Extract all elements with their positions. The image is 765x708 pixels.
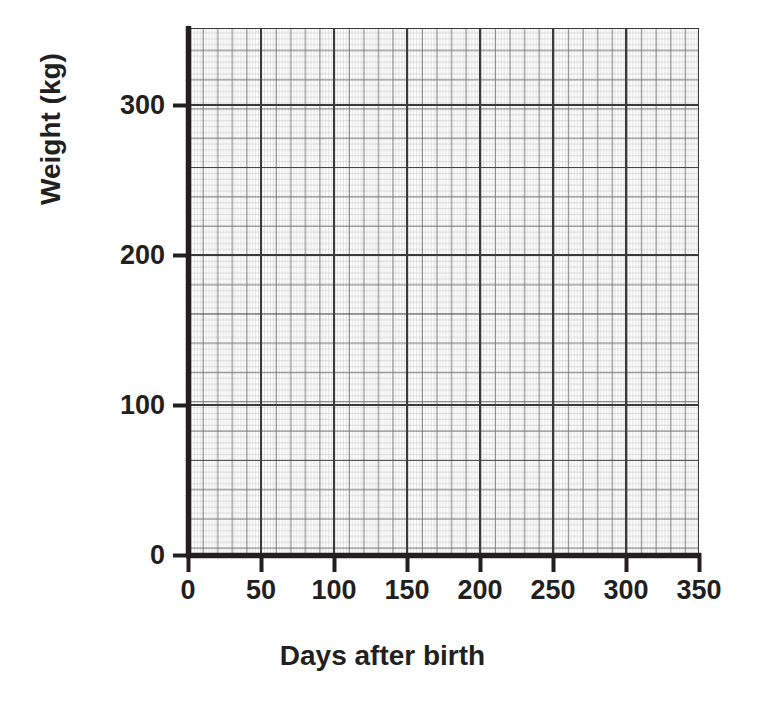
plot-area [188, 28, 699, 555]
x-tick-label-300: 300 [603, 577, 648, 604]
grid-lines [188, 28, 699, 555]
x-tick-marks [189, 553, 700, 572]
x-tick-label-200: 200 [457, 577, 502, 604]
y-tick-label-300: 300 [110, 92, 165, 119]
x-tick-label-100: 100 [311, 577, 356, 604]
y-tick-label-100: 100 [110, 392, 165, 419]
y-tick-label-0: 0 [110, 542, 165, 569]
x-tick-label-150: 150 [384, 577, 429, 604]
y-axis-title: Weight (kg) [35, 53, 67, 205]
x-axis-title: Days after birth [0, 640, 765, 672]
x-tick-label-0: 0 [180, 577, 195, 604]
graph-figure: 0 50 100 150 200 250 300 350 0 100 200 3… [0, 0, 765, 708]
x-tick-label-50: 50 [246, 577, 276, 604]
x-tick-label-250: 250 [530, 577, 575, 604]
x-tick-label-350: 350 [676, 577, 721, 604]
y-tick-label-200: 200 [110, 242, 165, 269]
